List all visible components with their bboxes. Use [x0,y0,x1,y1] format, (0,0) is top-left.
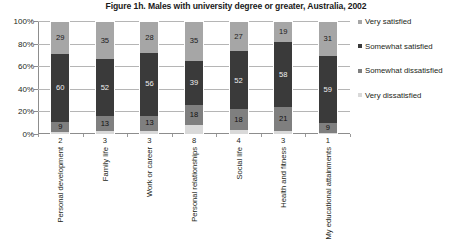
category-label: Work or career [145,147,154,197]
bar-segment[interactable]: 18 [229,109,249,129]
bar-segment[interactable]: 29 [50,21,70,54]
stacked-bar[interactable]: 195821 [273,21,293,134]
y-axis-label: 60% [0,62,34,71]
bar-slot: 29609 [38,21,83,134]
bar-segment[interactable]: 21 [273,107,293,130]
bar-segment[interactable] [184,125,204,134]
very-dissatisfied-value: 2 [38,135,83,146]
category-label: Social life [234,147,243,180]
stacked-bar[interactable]: 275218 [229,21,249,134]
legend-label: Very dissatisfied [365,91,421,101]
category-label: Family life [100,147,109,181]
y-axis-label: 40% [0,84,34,93]
bar-segment[interactable]: 27 [229,21,249,51]
legend-swatch-icon [358,20,362,24]
category-cell: Social life [216,147,261,247]
chart-container: Figure 1h. Males with university degree … [0,0,472,250]
bar-segment[interactable]: 13 [139,116,159,131]
bar-slot: 195821 [261,21,306,134]
bar-segment[interactable]: 19 [273,21,293,42]
bar-segment[interactable]: 31 [318,21,338,56]
legend-swatch-icon [358,69,362,73]
plot-area: 2960935521328561335391827521819582131599 [38,21,350,134]
very-dissatisfied-value: 8 [172,135,217,146]
category-cell: Personal relationships [172,147,217,247]
legend-item[interactable]: Somewhat satisfied [358,42,470,52]
category-cell: Work or career [127,147,172,247]
category-cell: My educational attainments [305,147,350,247]
bar-segment[interactable]: 9 [318,123,338,133]
bar-segment[interactable]: 52 [95,59,115,116]
bar-slot: 285613 [127,21,172,134]
bar-slot: 31599 [305,21,350,134]
chart-legend: Very satisfiedSomewhat satisfiedSomewhat… [358,17,470,115]
category-label: Personal development [56,147,65,223]
legend-label: Very satisfied [365,17,411,27]
bar-slot: 355213 [83,21,128,134]
category-cell: Health and fitness [261,147,306,247]
very-dissatisfied-value: 3 [83,135,128,146]
y-axis-label: 0% [0,130,34,139]
category-label: Health and fitness [279,147,288,208]
y-axis-label: 80% [0,39,34,48]
y-axis-label: 100% [0,17,34,26]
bar-segment[interactable]: 39 [184,61,204,105]
category-cell: Family life [83,147,128,247]
bar-segment[interactable]: 59 [318,56,338,123]
category-label: Personal relationships [190,147,199,222]
category-label: My educational attainments [323,147,332,239]
stacked-bar[interactable]: 29609 [50,21,70,134]
x-axis-tick [350,134,351,137]
legend-swatch-icon [358,93,362,97]
bar-segment[interactable]: 56 [139,53,159,116]
legend-swatch-icon [358,44,362,48]
bar-segment[interactable]: 35 [95,21,115,59]
bar-segment[interactable]: 52 [229,51,249,109]
x-axis-category-labels: Personal developmentFamily lifeWork or c… [38,147,350,247]
stacked-bar[interactable]: 31599 [318,21,338,134]
very-dissatisfied-value-row: 2338431 [38,135,350,146]
category-cell: Personal development [38,147,83,247]
bar-group: 2960935521328561335391827521819582131599 [38,21,350,134]
bar-slot: 275218 [216,21,261,134]
legend-label: Somewhat satisfied [365,42,433,52]
y-axis-label: 20% [0,107,34,116]
bar-segment[interactable]: 28 [139,21,159,53]
legend-item[interactable]: Very satisfied [358,17,470,27]
bar-segment[interactable]: 60 [50,54,70,122]
stacked-bar[interactable]: 285613 [139,21,159,134]
bar-segment[interactable]: 13 [95,116,115,130]
stacked-bar[interactable]: 353918 [184,21,204,134]
legend-item[interactable]: Very dissatisfied [358,91,470,101]
bar-segment[interactable]: 35 [184,21,204,61]
very-dissatisfied-value: 3 [261,135,306,146]
bar-slot: 353918 [172,21,217,134]
legend-item[interactable]: Somewhat dissatisfied [358,66,470,76]
very-dissatisfied-value: 1 [305,135,350,146]
bar-segment[interactable]: 58 [273,42,293,107]
stacked-bar[interactable]: 355213 [95,21,115,134]
very-dissatisfied-value: 3 [127,135,172,146]
chart-title: Figure 1h. Males with university degree … [0,1,472,11]
bar-segment[interactable]: 18 [184,105,204,125]
very-dissatisfied-value: 4 [216,135,261,146]
legend-label: Somewhat dissatisfied [365,66,443,76]
bar-segment[interactable]: 9 [50,122,70,132]
